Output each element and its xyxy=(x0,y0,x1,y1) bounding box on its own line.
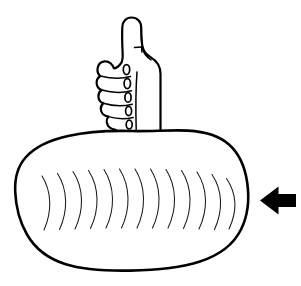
fingernail-4 xyxy=(126,106,132,115)
illustration-canvas: Thumbs-up hand over ribbed cushion with … xyxy=(0,0,301,286)
fingernail-1 xyxy=(123,65,129,75)
fingernail-2 xyxy=(124,79,130,89)
thumb-knuckle-crease xyxy=(135,47,142,48)
illustration-svg xyxy=(0,0,301,286)
fingernail-5 xyxy=(126,120,132,129)
fingernail-3 xyxy=(125,93,131,103)
ribbed-cushion xyxy=(15,130,248,270)
